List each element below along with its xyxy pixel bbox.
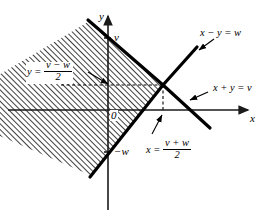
fraction-v-plus-w-over-2: v + w 2 <box>163 138 191 160</box>
line-x-minus-y-equals-w <box>163 47 197 85</box>
leader-lower-right <box>190 92 208 100</box>
label-vertical-lhs: x = <box>146 144 160 155</box>
label-x-minus-y-equals-w: x − y = w <box>200 28 241 39</box>
line-x-plus-y-equals-v <box>163 85 210 128</box>
fraction-denominator: 2 <box>163 150 191 161</box>
label-x-equals-v-plus-w-over-2: x = v + w 2 <box>145 140 192 162</box>
label-horizontal-lhs: y = <box>27 66 41 77</box>
hatched-region <box>0 22 163 175</box>
label-y-equals-v-minus-w-over-2: y = v − w 2 <box>26 62 73 84</box>
label-x-plus-y-equals-v: x + y = v <box>213 83 252 94</box>
x-axis-label: x <box>250 113 255 124</box>
tick-label-v: v <box>114 32 119 43</box>
tick-label-neg-w: −w <box>114 146 129 157</box>
leader-vertical-label <box>152 115 162 134</box>
origin-label: 0 <box>110 110 118 121</box>
leader-upper-right <box>199 39 214 50</box>
fraction-v-minus-w-over-2: v − w 2 <box>44 60 72 82</box>
fraction-denominator: 2 <box>44 72 72 83</box>
figure-canvas: y x 0 v −w x − y = w x + y = v y = v − w… <box>0 0 276 219</box>
y-axis-label: y <box>99 11 104 22</box>
